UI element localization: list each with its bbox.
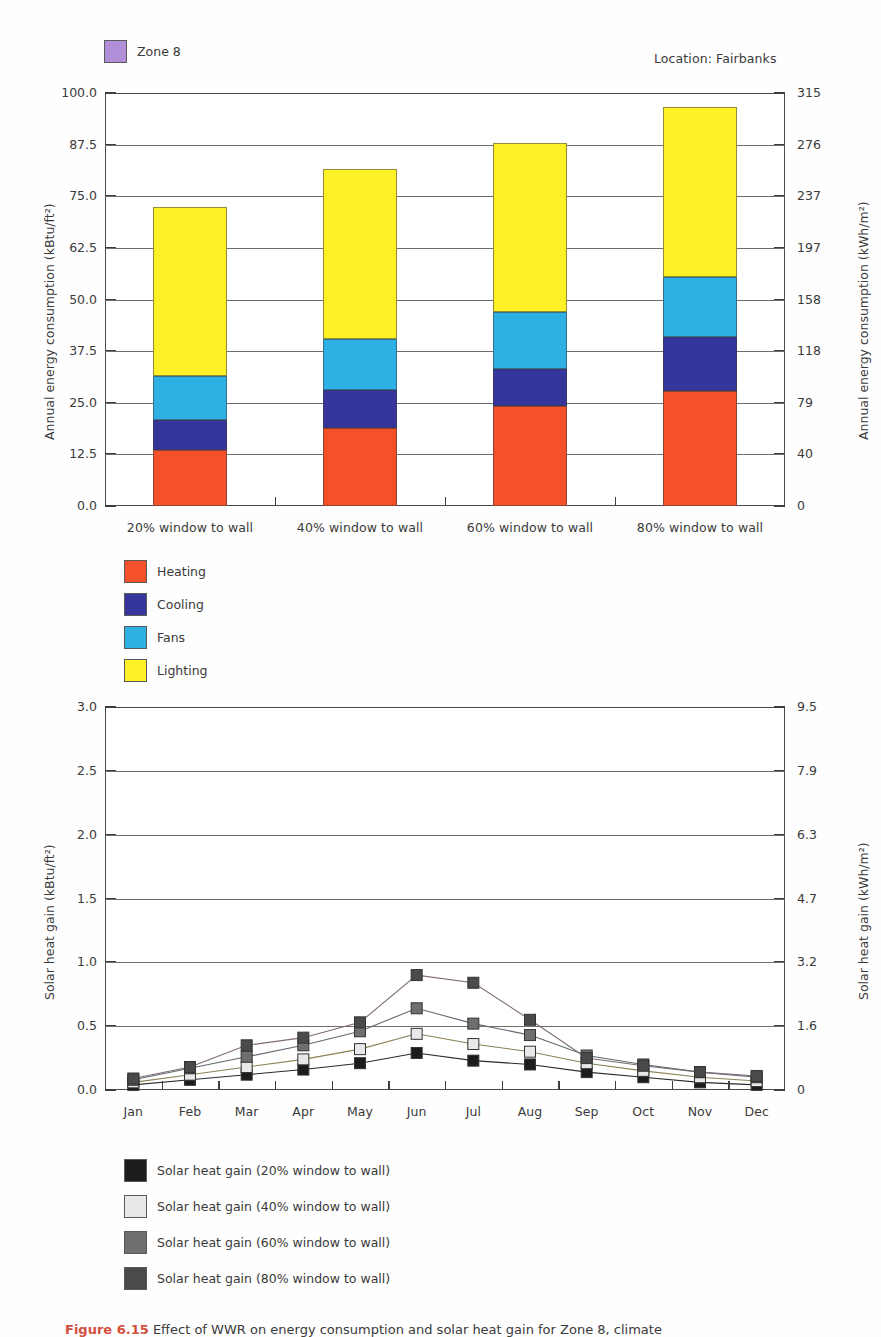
figure-number: Figure 6.15 [65, 1322, 149, 1337]
line-chart-ylabel-right: Solar heat gain (kWh/m²) [856, 842, 871, 1000]
x-tick-mark [445, 1081, 446, 1090]
series-marker-0 [355, 1058, 366, 1069]
series-marker-3 [751, 1070, 762, 1081]
x-tick-mark [388, 1081, 389, 1090]
series-marker-3 [695, 1067, 706, 1078]
series-marker-2 [468, 1018, 479, 1029]
x-tick-mark [218, 1081, 219, 1090]
series-marker-0 [468, 1055, 479, 1066]
series-line-2 [133, 1008, 756, 1080]
x-tick-mark [728, 1081, 729, 1090]
series-marker-2 [241, 1051, 252, 1062]
month-label: Apr [292, 1104, 314, 1119]
series-marker-0 [298, 1064, 309, 1075]
series-marker-0 [411, 1047, 422, 1058]
month-label: Oct [632, 1104, 654, 1119]
series-marker-3 [128, 1073, 139, 1084]
x-tick-mark [275, 1081, 276, 1090]
series-marker-3 [355, 1017, 366, 1028]
series-marker-1 [298, 1054, 309, 1065]
series-line-1 [133, 1034, 756, 1083]
month-label: Mar [235, 1104, 259, 1119]
series-marker-3 [525, 1014, 536, 1025]
series-marker-1 [241, 1062, 252, 1073]
legend-swatch-series-3 [124, 1267, 147, 1290]
series-marker-3 [411, 970, 422, 981]
legend-label-series-0: Solar heat gain (20% window to wall) [157, 1163, 390, 1178]
x-tick-mark [162, 1081, 163, 1090]
month-label: Sep [575, 1104, 599, 1119]
series-marker-1 [411, 1028, 422, 1039]
month-label: Dec [744, 1104, 769, 1119]
month-label: Nov [688, 1104, 713, 1119]
x-tick-mark [502, 1081, 503, 1090]
legend-label-series-2: Solar heat gain (60% window to wall) [157, 1235, 390, 1250]
x-tick-mark [332, 1081, 333, 1090]
series-marker-3 [298, 1032, 309, 1043]
legend-swatch-series-2 [124, 1231, 147, 1254]
month-label: Feb [179, 1104, 201, 1119]
month-label: Aug [518, 1104, 543, 1119]
series-marker-3 [468, 977, 479, 988]
series-line-3 [133, 975, 756, 1078]
series-marker-3 [241, 1040, 252, 1051]
month-label: Jan [124, 1104, 144, 1119]
month-label: May [347, 1104, 373, 1119]
series-marker-1 [468, 1039, 479, 1050]
legend-label-series-3: Solar heat gain (80% window to wall) [157, 1271, 390, 1286]
series-marker-3 [581, 1053, 592, 1064]
month-label: Jun [407, 1104, 427, 1119]
figure-caption-text: Effect of WWR on energy consumption and … [153, 1322, 662, 1337]
legend-swatch-series-1 [124, 1195, 147, 1218]
x-tick-mark [558, 1081, 559, 1090]
x-tick-mark [615, 1081, 616, 1090]
series-marker-1 [525, 1046, 536, 1057]
line-chart-ylabel-left: Solar heat gain (kBtu/ft²) [42, 844, 57, 1000]
legend-label-series-1: Solar heat gain (40% window to wall) [157, 1199, 390, 1214]
series-marker-1 [355, 1044, 366, 1055]
series-marker-3 [638, 1060, 649, 1071]
series-marker-0 [525, 1059, 536, 1070]
legend-swatch-series-0 [124, 1159, 147, 1182]
series-marker-3 [185, 1062, 196, 1073]
month-label: Jul [466, 1104, 481, 1119]
x-tick-mark [672, 1081, 673, 1090]
series-marker-2 [525, 1030, 536, 1041]
figure-caption: Figure 6.15 Effect of WWR on energy cons… [65, 1322, 662, 1337]
series-marker-2 [411, 1003, 422, 1014]
